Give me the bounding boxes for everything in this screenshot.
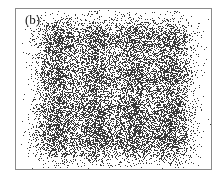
- panel-label: (b): [25, 12, 40, 28]
